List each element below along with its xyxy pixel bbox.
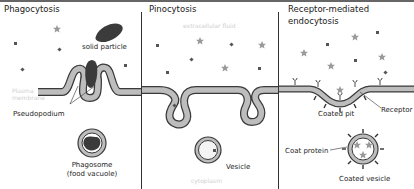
panel-title-phagocytosis: Phagocytosis xyxy=(4,5,60,14)
label-phagosome: Phagosome xyxy=(66,162,118,169)
label-coat-protein: Coat protein xyxy=(285,148,328,155)
label-extracellular-fluid: extracellular fluid xyxy=(183,23,236,29)
star-icon xyxy=(196,37,204,45)
star-icon xyxy=(351,33,359,41)
dot-icon xyxy=(326,43,329,46)
star-icon xyxy=(53,25,61,33)
label-coated-vesicle: Coated vesicle xyxy=(339,176,390,183)
star-icon xyxy=(327,62,335,70)
dot-icon xyxy=(57,47,61,51)
dot-icon xyxy=(354,59,357,62)
dot-icon xyxy=(189,57,193,61)
star-icon xyxy=(221,64,229,72)
dot-icon xyxy=(258,67,261,70)
label-receptor: Receptor xyxy=(381,107,412,114)
label-food-vacuole: (food vacuole) xyxy=(66,171,118,178)
endocytosis-diagram: Phagocytosis solid particle Plasma membr… xyxy=(0,0,414,189)
dot-icon xyxy=(166,71,169,74)
label-solid-particle: solid particle xyxy=(82,44,127,51)
dot-icon xyxy=(376,31,379,34)
panel-title-receptor-mediated: Receptor-mediated xyxy=(288,5,369,14)
star-icon xyxy=(300,49,308,57)
solid-particle xyxy=(95,23,122,42)
label-coated-pit: Coated pit xyxy=(318,111,354,118)
star-icon xyxy=(258,41,266,49)
coated-vesicle xyxy=(342,129,384,169)
star-icon xyxy=(378,53,386,61)
dot-icon xyxy=(14,42,17,45)
dot-icon xyxy=(229,42,233,46)
pinocytosis-panel xyxy=(142,37,278,163)
label-cytoplasm: cytoplasm xyxy=(191,178,222,184)
dot-icon xyxy=(124,64,127,67)
panel-title-endocytosis: endocytosis xyxy=(288,17,339,26)
label-vesicle: Vesicle xyxy=(226,164,250,171)
panel-title-pinocytosis: Pinocytosis xyxy=(149,5,196,14)
dot-icon xyxy=(156,44,159,47)
label-plasma-membrane: Plasma membrane xyxy=(12,87,42,101)
dot-icon xyxy=(383,70,387,74)
label-pseudopodium: Pseudopodium xyxy=(13,111,65,118)
dot-icon xyxy=(20,67,24,71)
